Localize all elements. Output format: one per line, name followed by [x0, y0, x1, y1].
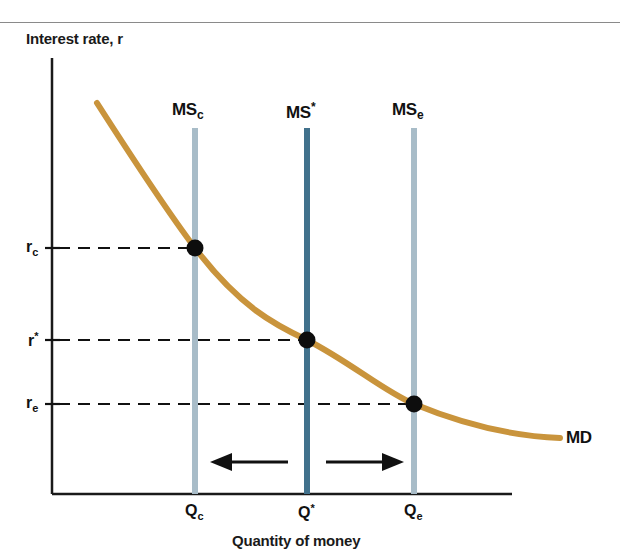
ms-label-star-base: MS: [286, 103, 311, 122]
rate-label-re: re: [26, 394, 38, 414]
rate-label-rstar: r*: [28, 330, 39, 350]
ms-label-e: MSe: [392, 100, 423, 122]
ms-label-star-sup: *: [311, 100, 315, 114]
equilibrium-dot-e: [406, 396, 423, 413]
ms-label-star: MS*: [286, 100, 315, 123]
quantity-label-qe-base: Q: [404, 502, 416, 519]
quantity-label-qc: Qc: [185, 502, 204, 522]
md-label: MD: [566, 428, 592, 448]
rate-label-rstar-sup: *: [34, 330, 38, 342]
equilibrium-dot-star: [299, 332, 316, 349]
quantity-label-qc-base: Q: [185, 502, 197, 519]
ms-label-c-base: MS: [172, 100, 197, 119]
md-curve: [97, 103, 560, 438]
equilibrium-dot-c: [187, 240, 204, 257]
rate-label-rc-sub: c: [32, 246, 38, 258]
rate-label-rc: rc: [26, 238, 38, 258]
money-market-chart: Interest rate, r: [0, 0, 620, 557]
ms-label-c: MSc: [172, 100, 203, 122]
x-axis-title: Quantity of money: [232, 532, 360, 549]
quantity-label-qstar-sup: *: [310, 502, 314, 514]
chart-canvas: [0, 0, 620, 557]
ms-label-e-sub: e: [417, 108, 423, 122]
rate-label-re-sub: e: [32, 402, 38, 414]
arrow-contraction: [210, 453, 288, 471]
ms-label-e-base: MS: [392, 100, 417, 119]
quantity-label-qe: Qe: [404, 502, 423, 522]
quantity-label-qstar-base: Q: [298, 504, 310, 521]
quantity-label-qc-sub: c: [197, 510, 203, 522]
quantity-label-qe-sub: e: [416, 510, 422, 522]
quantity-label-qstar: Q*: [298, 502, 315, 522]
ms-label-c-sub: c: [197, 108, 203, 122]
arrow-expansion: [326, 453, 404, 471]
